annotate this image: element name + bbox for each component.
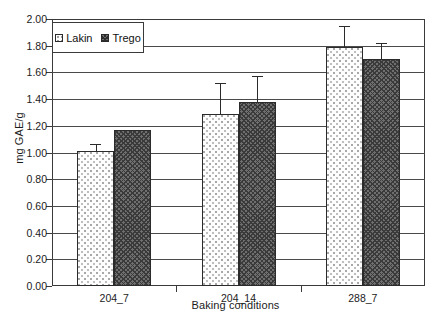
y-axis-tick-label: 1.40 [3,93,47,105]
error-bar-cap [252,76,263,77]
bar-trego-204_14 [239,102,276,286]
legend-item-label: Trego [112,32,140,44]
bar-lakin-204_14 [202,114,239,286]
y-axis-tick-label: 1.80 [3,40,47,52]
error-bar-cap [339,26,350,27]
y-axis-tick-label: 0.60 [3,200,47,212]
x-axis-tick [301,286,302,292]
error-bar-line [257,76,258,101]
error-bar-cap [90,144,101,145]
y-axis-tick-label: 0.80 [3,173,47,185]
y-axis-tick-label: 0.40 [3,227,47,239]
dark-hatched-swatch [101,34,109,42]
legend-item-lakin: Lakin [55,32,92,44]
x-axis-tick [176,286,177,292]
y-axis-tick-label: 2.00 [3,13,47,25]
x-axis-title: Baking conditions [45,299,426,311]
bar-trego-288_7 [363,59,400,286]
bar-lakin-288_7 [326,47,363,286]
error-bar-line [381,43,382,59]
error-bar-cap [215,83,226,84]
error-bar-line [96,144,97,151]
bar-lakin-204_7 [77,151,114,286]
error-bar-line [344,26,345,47]
y-axis-tick-label: 0.20 [3,253,47,265]
light-dotted-swatch [55,34,63,42]
y-axis-tick-label: 1.20 [3,120,47,132]
error-bar-line [220,83,221,114]
bar-trego-204_7 [114,130,151,286]
y-axis-tick-label: 1.00 [3,147,47,159]
legend-item-label: Lakin [66,32,92,44]
legend-item-trego: Trego [101,32,140,44]
bar-chart: mg GAE/g 0.000.200.400.600.801.001.201.4… [0,0,446,319]
error-bar-cap [376,43,387,44]
y-axis-tick-label: 0.00 [3,280,47,292]
legend: LakinTrego [52,22,144,53]
y-axis-tick-label: 1.60 [3,66,47,78]
legend-row: LakinTrego [53,23,143,52]
